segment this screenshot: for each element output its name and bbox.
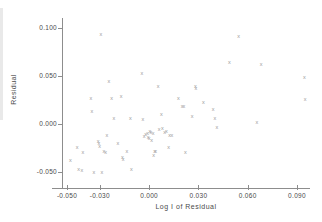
data-point-marker: x — [121, 156, 126, 163]
data-point-marker: x — [111, 115, 116, 122]
x-tick-mark — [149, 185, 150, 190]
y-axis-line — [62, 18, 63, 188]
data-point-marker: x — [89, 108, 94, 115]
data-point-marker: x — [75, 144, 80, 151]
y-tick-label: -0.050 — [9, 168, 57, 175]
data-point-marker: x — [128, 115, 133, 122]
x-tick-mark — [248, 185, 249, 190]
plot-area: 0.1000.0500.000-0.050 -0.050-0.0300.0000… — [0, 0, 322, 222]
data-point-marker: x — [68, 157, 73, 164]
y-tick-mark — [58, 172, 63, 173]
data-point-marker: x — [302, 74, 307, 81]
data-point-marker: x — [140, 116, 145, 123]
x-tick-label: 0.090 — [274, 192, 320, 199]
data-point-marker: x — [181, 103, 186, 110]
data-point-marker: x — [212, 115, 217, 122]
data-point-marker: x — [214, 124, 219, 131]
data-point-marker: x — [124, 148, 129, 155]
data-point-marker: x — [139, 70, 144, 77]
data-point-marker: x — [227, 59, 232, 66]
x-tick-mark — [100, 185, 101, 190]
data-point-marker: x — [79, 167, 84, 174]
x-tick-label: 0.030 — [175, 192, 221, 199]
y-tick-mark — [58, 76, 63, 77]
data-point-marker: x — [259, 61, 264, 68]
x-axis-title: Log I of Residual — [62, 203, 310, 210]
x-tick-mark — [67, 185, 68, 190]
data-point-marker: x — [115, 140, 120, 147]
x-tick-mark — [198, 185, 199, 190]
x-tick-label: -0.030 — [77, 192, 123, 199]
data-point-marker: x — [201, 99, 206, 106]
data-point-marker: x — [99, 169, 104, 176]
y-axis-title: Residual — [10, 60, 17, 120]
data-point-marker: x — [129, 166, 134, 173]
data-point-marker: x — [153, 148, 158, 155]
data-point-marker: x — [211, 106, 216, 113]
data-point-marker: x — [119, 93, 124, 100]
x-tick-mark — [297, 185, 298, 190]
data-point-marker: x — [193, 85, 198, 92]
data-point-marker: x — [236, 33, 241, 40]
data-point-marker: x — [303, 96, 308, 103]
x-axis-line — [52, 188, 310, 189]
data-point-marker: x — [183, 149, 188, 156]
data-point-marker: x — [91, 169, 96, 176]
data-point-marker: x — [151, 130, 156, 137]
data-point-marker: x — [169, 132, 174, 139]
x-tick-label: 0.060 — [225, 192, 271, 199]
y-tick-mark — [58, 28, 63, 29]
y-tick-label: 0.000 — [9, 120, 57, 127]
data-point-marker: x — [109, 95, 114, 102]
data-point-marker: x — [156, 83, 161, 90]
data-point-marker: x — [254, 119, 259, 126]
data-point-marker: x — [190, 113, 195, 120]
data-point-marker: x — [88, 95, 93, 102]
data-point-marker: x — [98, 31, 103, 38]
x-tick-label: 0.000 — [126, 192, 172, 199]
data-point-marker: x — [103, 149, 108, 156]
data-point-marker: x — [104, 132, 109, 139]
data-point-marker: x — [176, 95, 181, 102]
data-point-marker: x — [106, 78, 111, 85]
data-point-marker: x — [149, 137, 154, 144]
data-point-marker: x — [159, 111, 164, 118]
y-tick-mark — [58, 124, 63, 125]
scatter-plot-figure: 0.1000.0500.000-0.050 -0.050-0.0300.0000… — [0, 0, 322, 222]
data-point-marker: x — [80, 149, 85, 156]
y-tick-label: 0.100 — [9, 24, 57, 31]
data-point-marker: x — [166, 144, 171, 151]
